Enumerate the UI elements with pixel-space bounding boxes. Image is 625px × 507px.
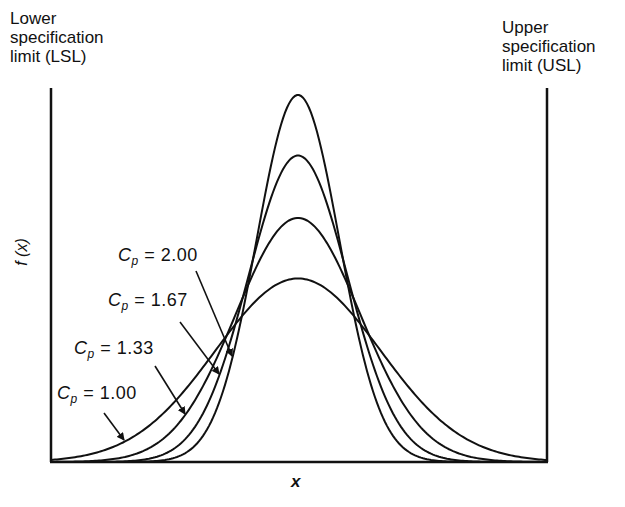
cp-equals: = [100,338,111,358]
cp-label-1-00: Cp = 1.00 [57,383,137,406]
cp-symbol: C [108,290,122,310]
cp-label-1-67: Cp = 1.67 [108,290,188,313]
distribution-curves [51,95,547,462]
cp-equals: = [144,245,155,265]
cp-value: 1.67 [151,290,188,310]
cp-subscript: p [132,254,139,268]
arrow-icon [104,413,124,440]
cp-label-1-33: Cp = 1.33 [74,338,154,361]
cp-subscript: p [122,299,129,313]
arrow-icon [180,322,219,374]
cp-label-2-00: Cp = 2.00 [118,245,198,268]
cp-symbol: C [118,245,132,265]
cp-subscript: p [71,392,78,406]
cp-value: 1.00 [100,383,137,403]
cp-symbol: C [74,338,88,358]
cp-symbol: C [57,383,71,403]
cp-value: 2.00 [161,245,198,265]
cp-equals: = [83,383,94,403]
cp-value: 1.33 [117,338,154,358]
plot-area [0,0,625,507]
arrow-icon [196,271,232,356]
cp-subscript: p [88,347,95,361]
cp-equals: = [134,290,145,310]
